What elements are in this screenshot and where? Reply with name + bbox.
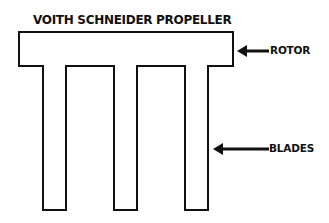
rotor-arrow-icon xyxy=(237,45,269,57)
blades-arrow-icon xyxy=(213,143,269,155)
blade-1 xyxy=(42,65,67,211)
blade-3 xyxy=(184,65,209,211)
rotor-box xyxy=(18,31,234,67)
rotor-label: ROTOR xyxy=(270,44,310,56)
diagram-title: VOITH SCHNEIDER PROPELLER xyxy=(33,13,221,27)
blade-2 xyxy=(113,65,138,211)
blades-label: BLADES xyxy=(269,142,314,154)
